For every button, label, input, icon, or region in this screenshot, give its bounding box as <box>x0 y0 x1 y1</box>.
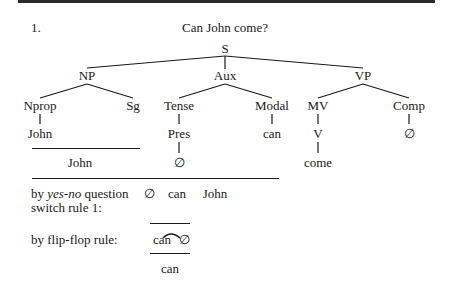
node-vp: VP <box>355 69 372 83</box>
flip-flop-input-can: can <box>153 233 171 247</box>
leaf-pres-null: ∅ <box>174 156 185 170</box>
flip-flop-output-can: can <box>161 262 179 276</box>
transformation-underline <box>32 178 279 179</box>
node-tense: Tense <box>164 99 194 113</box>
flip-flop-bottom-bar <box>150 253 190 254</box>
flip-flop-rule-label: by flip-flop rule: <box>31 233 118 247</box>
example-number: 1. <box>31 21 41 35</box>
example-sentence: Can John come? <box>182 21 268 35</box>
leaf-can: can <box>263 127 281 141</box>
yes-no-output-null: ∅ <box>144 187 155 201</box>
node-comp: Comp <box>393 99 425 113</box>
flip-flop-input-null: ∅ <box>179 233 190 247</box>
flip-flop-top-bar <box>150 223 190 224</box>
yes-no-rule-label-line2: switch rule 1: <box>31 201 102 215</box>
node-nprop: Nprop <box>23 99 56 113</box>
yes-no-output-john: John <box>203 187 228 201</box>
node-aux: Aux <box>214 69 236 83</box>
leaf-john: John <box>28 127 53 141</box>
node-s: S <box>221 42 228 56</box>
yes-no-rule-label: by yes-no question <box>31 187 129 201</box>
node-sg: Sg <box>126 99 140 113</box>
leaf-comp-null: ∅ <box>404 127 415 141</box>
np-underline <box>32 148 140 149</box>
np-result-john: John <box>68 156 93 170</box>
yes-no-output-can: can <box>168 187 186 201</box>
node-np: NP <box>79 69 96 83</box>
node-v: V <box>313 127 322 141</box>
node-mv: MV <box>308 99 329 113</box>
node-modal: Modal <box>255 99 289 113</box>
leaf-come: come <box>304 156 332 170</box>
node-pres: Pres <box>168 127 190 141</box>
